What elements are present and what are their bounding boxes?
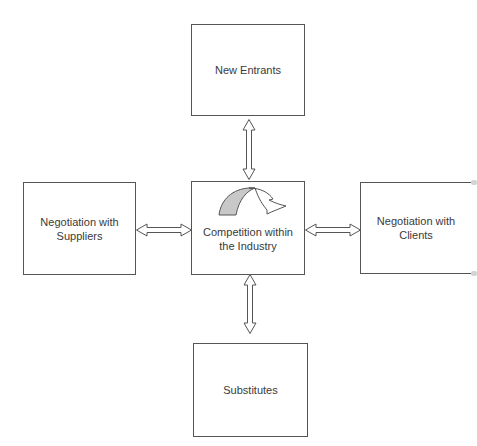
suppliers-box: Negotiation with Suppliers [23, 182, 136, 275]
edge-mark-top [471, 180, 477, 185]
suppliers-label: Negotiation with Suppliers [34, 215, 124, 243]
new-entrants-box: New Entrants [191, 24, 305, 116]
substitutes-box: Substitutes [193, 343, 308, 437]
clients-box: Negotiation with Clients [360, 182, 471, 274]
new-entrants-label: New Entrants [209, 63, 287, 77]
double-arrow-top-icon [242, 119, 256, 180]
curved-arrow-icon [217, 185, 289, 217]
double-arrow-right-icon [305, 223, 361, 237]
clients-label: Negotiation with Clients [371, 214, 461, 242]
competition-label: Competition within the Industry [192, 225, 304, 253]
competition-box: Competition within the Industry [191, 181, 305, 275]
substitutes-label: Substitutes [217, 383, 283, 397]
edge-mark-bottom [471, 271, 477, 276]
double-arrow-left-icon [136, 223, 192, 237]
double-arrow-bottom-icon [243, 274, 257, 334]
